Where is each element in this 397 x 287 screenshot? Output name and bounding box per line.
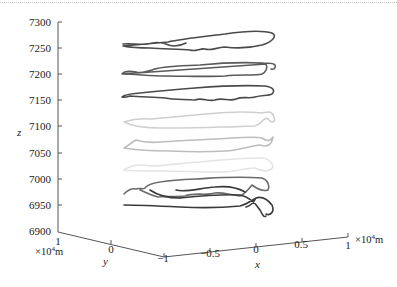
trajectory-8 [124,195,273,217]
z-tick-7200: 7200 [29,68,52,80]
z-axis [58,22,62,232]
x-tick-labels: −1 −0.5 0 0.5 1 [157,238,351,264]
z-tick-7000: 7000 [29,173,52,185]
trajectory-1 [123,31,274,50]
x-tick-0-5: 0.5 [294,238,308,250]
x-axis-label: x [254,258,260,270]
z-tick-7300: 7300 [29,16,52,28]
z-tick-6950: 6950 [29,199,52,211]
x-tick-neg1: −1 [157,252,169,264]
y-tick-0: 0 [108,243,114,255]
z-axis-label: z [16,126,22,138]
trajectory-5 [124,137,273,152]
x-tick-0: 0 [253,243,259,255]
3d-trajectory-chart: 7300 7250 7200 7150 7100 7050 7000 6950 … [0,0,397,287]
z-tick-7250: 7250 [29,42,52,54]
z-tick-7150: 7150 [29,94,52,106]
trajectory-7 [124,177,269,197]
z-tick-7050: 7050 [29,147,52,159]
z-tick-labels: 7300 7250 7200 7150 7100 7050 7000 6950 … [29,16,52,237]
trajectory-2 [122,63,275,77]
x-unit-label: ×104m [355,233,383,245]
z-tick-7100: 7100 [29,120,52,132]
trajectories [122,31,275,216]
x-tick-1: 1 [345,239,351,251]
trajectory-6 [124,158,273,172]
z-tick-6900: 6900 [29,225,52,237]
y-unit-label: ×104m [35,245,63,257]
trajectory-4 [124,112,275,128]
trajectory-3 [122,86,274,101]
x-tick-neg0-5: −0.5 [200,247,220,259]
y-axis-label: y [102,255,108,267]
